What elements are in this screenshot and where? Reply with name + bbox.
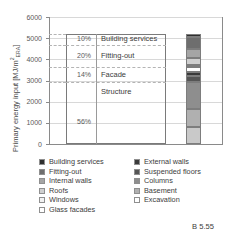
breakdown-category-label: Structure — [101, 88, 131, 96]
breakdown-leader-line — [49, 67, 66, 68]
y-axis-tick-label: 4000 — [18, 56, 42, 63]
figure-chart: Primary energy input [MJ/m2ERA] 01000200… — [0, 0, 236, 237]
y-axis-title-main: Primary energy input [MJ/m — [11, 60, 20, 152]
plot-right-border — [222, 17, 223, 145]
legend-label: Fitting-out — [49, 168, 81, 176]
breakdown-box-inner-divider — [96, 34, 97, 144]
y-axis-tick-label: 2000 — [18, 98, 42, 105]
stacked-bar-segment — [186, 67, 201, 71]
stacked-bar-segment — [186, 127, 201, 144]
y-axis-tick-label: 3000 — [18, 77, 42, 84]
breakdown-segment-divider — [66, 82, 166, 83]
legend-swatch — [134, 169, 140, 175]
legend-label: Suspended floors — [144, 168, 201, 176]
legend-label: Columns — [144, 177, 173, 185]
breakdown-leader-line — [49, 45, 66, 46]
breakdown-category-label: Fitting-out — [101, 52, 134, 60]
breakdown-segment-divider — [66, 45, 166, 46]
figure-caption: B 5.55 — [192, 222, 214, 231]
stacked-bar-segment — [186, 65, 201, 68]
legend-swatch — [134, 178, 140, 184]
stacked-bar-segment — [186, 72, 201, 76]
y-axis-tick-label: 5000 — [18, 35, 42, 42]
stacked-bar-segment — [186, 82, 201, 109]
breakdown-leader-line — [49, 82, 66, 83]
legend-label: Roofs — [49, 187, 68, 195]
legend-label: External walls — [144, 158, 189, 166]
breakdown-segment-divider — [66, 67, 166, 68]
legend-swatch — [134, 159, 140, 165]
legend-label: Excavation — [144, 196, 180, 204]
y-axis-line — [49, 17, 50, 145]
y-axis-tick-label: 6000 — [18, 14, 42, 21]
legend-label: Building services — [49, 158, 104, 166]
legend-label: Basement — [144, 187, 177, 195]
legend-swatch — [39, 207, 45, 213]
stacked-bar-segment — [186, 76, 201, 82]
legend-swatch — [39, 197, 45, 203]
legend-swatch — [39, 159, 45, 165]
stacked-bar-segment — [186, 109, 201, 127]
legend-swatch — [39, 188, 45, 194]
breakdown-category-label: Building services — [101, 35, 157, 43]
legend-swatch — [134, 188, 140, 194]
legend-label: Glass facades — [49, 206, 95, 214]
stacked-bar-segment — [186, 34, 201, 38]
breakdown-percentage: 10% — [71, 35, 91, 42]
legend-swatch — [39, 178, 45, 184]
breakdown-percentage: 56% — [71, 118, 91, 125]
y-axis-tick-label: 1000 — [18, 119, 42, 126]
stacked-bar-segment — [186, 49, 201, 57]
stacked-bar-segment — [186, 37, 201, 49]
breakdown-percentage: 20% — [71, 52, 91, 59]
breakdown-percentage: 14% — [71, 71, 91, 78]
y-axis-title-close: ] — [11, 45, 20, 47]
y-axis-title-superscript: 2 — [9, 57, 15, 60]
breakdown-category-label: Facade — [101, 71, 126, 79]
stacked-bar-segment — [186, 58, 201, 65]
y-axis-tick-label: 0 — [18, 141, 42, 148]
stacked-bar — [186, 17, 201, 144]
legend-swatch — [39, 169, 45, 175]
breakdown-leader-line — [49, 34, 66, 35]
legend-label: Windows — [49, 196, 79, 204]
legend-swatch — [134, 197, 140, 203]
x-axis-line — [49, 144, 223, 145]
legend-label: Internal walls — [49, 177, 92, 185]
